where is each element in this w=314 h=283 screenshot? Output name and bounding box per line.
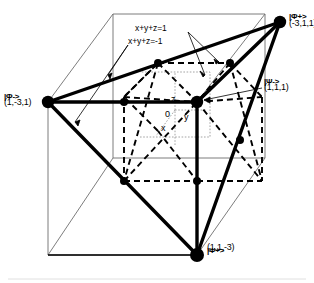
- vertex-coord-phi-minus: (1,-3,1): [4, 98, 31, 107]
- leader-plane-pos-a: [188, 32, 219, 62]
- leader-arrowhead-pos-b: [200, 71, 205, 77]
- coordinate-axes: [140, 72, 210, 145]
- vertex-coord-phi-plus: (-3,1,1): [289, 19, 314, 28]
- axis-label-origin: 0: [165, 110, 170, 119]
- vertex-dot-phi-minus: [42, 96, 54, 108]
- midpoint-dot-mid-right: [236, 136, 244, 144]
- midpoint-dot-top-left: [154, 59, 162, 67]
- vertex-coord-psi-minus: (1,1,1): [264, 83, 289, 92]
- axis-label-z: z: [171, 95, 176, 104]
- vertex-dot-psi-plus: [190, 248, 204, 262]
- plane-label-negative: x+y+z=-1: [128, 37, 162, 46]
- axis-label-x: x: [161, 124, 166, 133]
- inner-diag-b: [158, 63, 197, 102]
- bell-tetrahedron: [48, 22, 280, 255]
- vertex-ket-psi-plus: |Ψ+>: [207, 247, 224, 255]
- bell-tetrahedron-figure: |Φ+> (-3,1,1) |Φ-> (1,-3,1) |Ψ-> (1,1,1)…: [0, 0, 314, 283]
- vertex-dot-phi-plus: [274, 16, 286, 28]
- outer-cube-edge-tl: [48, 14, 113, 102]
- inner-edge-top-right: [230, 63, 262, 97]
- axis-label-y: y: [184, 113, 189, 122]
- midpoint-dot-low-left: [120, 177, 128, 185]
- plane-label-positive: x+y+z=1: [135, 24, 167, 33]
- leader-arrowhead-psiminus: [204, 97, 210, 103]
- vertex-dot-psi-minus: [191, 96, 203, 108]
- midpoint-dot-mid-left: [120, 98, 128, 106]
- leader-plane-neg-b: [75, 45, 128, 122]
- midpoint-dot-low-right: [193, 177, 201, 185]
- inner-octahedron: [124, 63, 262, 181]
- outer-cube-edge-bl: [48, 158, 113, 255]
- inner-diag-j: [158, 131, 197, 181]
- midpoint-dot-top-right: [226, 59, 234, 67]
- tetra-edge-phiminus-phiplus: [48, 22, 280, 102]
